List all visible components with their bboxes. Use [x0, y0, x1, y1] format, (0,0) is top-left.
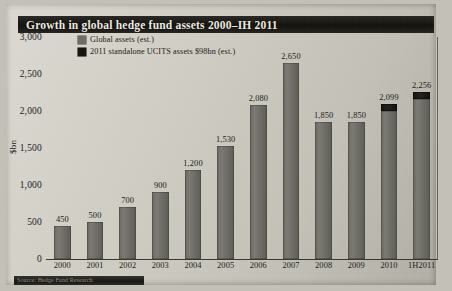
y-axis-title: $bn	[8, 140, 18, 154]
y-axis-tick-label: 2,500	[20, 69, 42, 79]
bar-value-label: 1,850	[347, 111, 366, 120]
x-axis-tick-label: 2001	[86, 261, 103, 270]
y-axis-tick-label: 1,000	[20, 180, 42, 190]
y-axis-tick-label: 3,000	[20, 32, 42, 42]
bar-segment-ucits	[413, 92, 430, 99]
bar-value-label: 1,530	[216, 135, 235, 144]
bar-1H2011	[413, 92, 430, 259]
x-axis-tick-label: 2000	[54, 261, 71, 270]
bar-value-label: 900	[154, 181, 167, 190]
bar-value-label: 2,099	[379, 93, 398, 102]
y-axis-tick-label: 2,000	[20, 106, 42, 116]
bar-2007	[283, 63, 300, 259]
chart-title-bar: Growth in global hedge fund assets 2000–…	[18, 16, 434, 33]
bar-value-label: 2,650	[281, 52, 300, 61]
bar-2002	[119, 207, 136, 259]
bar-segment-global	[348, 122, 365, 259]
bar-segment-global	[315, 122, 332, 259]
bar-segment-global	[152, 192, 169, 259]
bar-segment-global	[283, 63, 300, 259]
x-axis-tick-label: 2010	[380, 261, 397, 270]
x-axis-tick-label: 2009	[348, 261, 365, 270]
bar-value-label: 1,200	[183, 159, 202, 168]
scanned-page: Growth in global hedge fund assets 2000–…	[6, 4, 436, 285]
bar-2004	[185, 170, 202, 259]
x-axis-tick-label: 2007	[282, 261, 299, 270]
source-text: Source: Hedge Fund Research	[14, 276, 144, 285]
y-axis-tick-label: 1,500	[20, 143, 42, 153]
bar-2005	[217, 146, 234, 259]
bar-value-label: 450	[56, 215, 69, 224]
bar-segment-global	[250, 105, 267, 259]
bar-2010	[381, 104, 398, 259]
bar-segment-global	[54, 226, 71, 259]
bar-segment-global	[217, 146, 234, 259]
screenshot-root: Growth in global hedge fund assets 2000–…	[0, 0, 452, 291]
x-axis-tick-label: 2002	[119, 261, 136, 270]
x-axis-labels: 2000200120022003200420052006200720082009…	[46, 261, 438, 275]
bar-2001	[87, 222, 104, 259]
x-axis-tick-label: 2008	[315, 261, 332, 270]
bar-segment-global	[413, 99, 430, 259]
bar-2008	[315, 122, 332, 259]
bar-2006	[250, 105, 267, 259]
bar-series-container: 4505007009001,2001,5302,0802,6501,8501,8…	[46, 37, 438, 259]
x-axis-tick-label: 2004	[184, 261, 201, 270]
source-band: Source: Hedge Fund Research	[14, 276, 144, 285]
plot-right-border	[437, 37, 438, 260]
y-axis-tick-label: 0	[37, 254, 42, 264]
y-axis-tick-label: 500	[27, 217, 42, 227]
bar-segment-global	[185, 170, 202, 259]
x-axis-tick-label: 1H2011	[408, 261, 435, 270]
bar-value-label: 500	[89, 211, 102, 220]
bar-value-label: 2,080	[249, 94, 268, 103]
bar-value-label: 1,850	[314, 111, 333, 120]
bar-segment-global	[119, 207, 136, 259]
bar-segment-global	[381, 111, 398, 259]
bar-value-label: 2,256	[412, 81, 431, 90]
page-title: Growth in global hedge fund assets 2000–…	[18, 19, 278, 31]
bar-segment-ucits	[381, 104, 398, 111]
bar-segment-global	[87, 222, 104, 259]
bar-2003	[152, 192, 169, 259]
bar-value-label: 700	[121, 196, 134, 205]
bar-2000	[54, 226, 71, 259]
x-axis-tick-label: 2005	[217, 261, 234, 270]
bar-2009	[348, 122, 365, 259]
x-axis-tick-label: 2006	[250, 261, 267, 270]
x-axis-tick-label: 2003	[152, 261, 169, 270]
